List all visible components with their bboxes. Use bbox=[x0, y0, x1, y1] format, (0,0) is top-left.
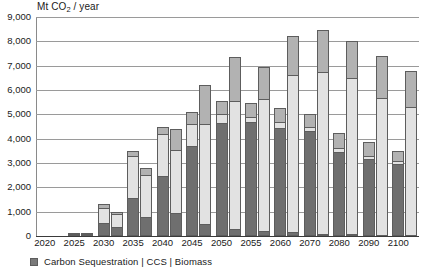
bar-segment-bio bbox=[363, 142, 375, 155]
bar-2055-series2[interactable] bbox=[258, 67, 270, 236]
bar-segment-seq bbox=[140, 217, 152, 236]
bar-group-2030 bbox=[98, 17, 124, 236]
bar-segment-bio bbox=[140, 168, 152, 175]
bars-layer bbox=[36, 17, 419, 236]
x-axis-tick-labels: 2020202520302035204020452050205520602070… bbox=[36, 238, 419, 252]
bar-2060-series1[interactable] bbox=[274, 108, 286, 236]
bar-2040-series1[interactable] bbox=[157, 127, 169, 237]
bar-2040-series2[interactable] bbox=[170, 129, 182, 236]
bar-group-2080 bbox=[333, 17, 359, 236]
bar-segment-bio bbox=[346, 41, 358, 78]
bar-segment-bio bbox=[111, 212, 123, 214]
bar-segment-ccs bbox=[98, 208, 110, 223]
bar-segment-seq bbox=[186, 146, 198, 236]
bar-segment-bio bbox=[258, 67, 270, 99]
bar-segment-seq bbox=[258, 231, 270, 236]
bar-2055-series1[interactable] bbox=[245, 103, 257, 236]
bar-segment-seq bbox=[245, 122, 257, 236]
bar-segment-bio bbox=[98, 204, 110, 208]
bar-group-2025 bbox=[68, 17, 94, 236]
bar-segment-seq bbox=[157, 176, 169, 236]
bar-segment-ccs bbox=[229, 101, 241, 229]
bar-segment-seq bbox=[363, 159, 375, 236]
bar-segment-bio bbox=[216, 101, 228, 114]
bar-segment-ccs bbox=[346, 78, 358, 234]
bar-segment-bio bbox=[405, 71, 417, 108]
bar-group-2035 bbox=[127, 17, 153, 236]
bar-2050-series2[interactable] bbox=[229, 57, 241, 236]
bar-segment-bio bbox=[245, 103, 257, 116]
bar-segment-bio bbox=[392, 151, 404, 161]
plot-area bbox=[36, 17, 419, 236]
bar-2080-series1[interactable] bbox=[333, 133, 345, 236]
bar-group-2020 bbox=[39, 17, 65, 236]
bar-segment-ccs bbox=[127, 156, 139, 199]
bar-segment-seq bbox=[199, 224, 211, 236]
y-tick-label-7000: 7,000 bbox=[0, 61, 31, 71]
bar-2090-series1[interactable] bbox=[363, 142, 375, 236]
bar-segment-seq bbox=[229, 229, 241, 236]
bar-group-2090 bbox=[363, 17, 389, 236]
bar-segment-bio bbox=[274, 108, 286, 121]
bar-2100-series1[interactable] bbox=[392, 151, 404, 236]
bar-2030-series1[interactable] bbox=[98, 204, 110, 236]
bar-2070-series1[interactable] bbox=[304, 114, 316, 236]
bar-2035-series1[interactable] bbox=[127, 151, 139, 236]
bar-2030-series2[interactable] bbox=[111, 212, 123, 236]
bar-segment-bio bbox=[127, 151, 139, 156]
bar-2060-series2[interactable] bbox=[287, 36, 299, 236]
legend-label: Carbon Sequestration | CCS | Biomass bbox=[44, 256, 212, 267]
bar-2050-series1[interactable] bbox=[216, 101, 228, 236]
bar-segment-ccs bbox=[245, 117, 257, 122]
bar-segment-seq bbox=[127, 198, 139, 236]
bar-2025-series2[interactable] bbox=[81, 234, 93, 236]
legend-swatch-icon bbox=[30, 258, 38, 266]
bar-segment-bio bbox=[157, 127, 169, 134]
bar-segment-bio bbox=[376, 56, 388, 98]
bar-segment-ccs bbox=[111, 214, 123, 227]
bar-segment-ccs bbox=[258, 99, 270, 232]
bar-segment-seq bbox=[98, 223, 110, 236]
bar-segment-bio bbox=[186, 112, 198, 124]
bar-segment-seq bbox=[346, 234, 358, 236]
bar-2035-series2[interactable] bbox=[140, 168, 152, 236]
bar-segment-ccs bbox=[216, 114, 228, 123]
bar-segment-ccs bbox=[363, 156, 375, 160]
bar-2070-series2[interactable] bbox=[317, 30, 329, 236]
y-tick-label-4000: 4,000 bbox=[0, 134, 31, 144]
chart-container: Mt CO2 / year 01,0002,0003,0004,0005,000… bbox=[0, 0, 421, 274]
bar-2080-series2[interactable] bbox=[346, 41, 358, 236]
bar-segment-bio bbox=[333, 133, 345, 149]
bar-2045-series2[interactable] bbox=[199, 85, 211, 236]
x-tick-label-2100: 2100 bbox=[378, 238, 418, 248]
bar-group-2050 bbox=[216, 17, 242, 236]
bar-2100-series2[interactable] bbox=[405, 71, 417, 236]
bar-2090-series2[interactable] bbox=[376, 56, 388, 236]
y-tick-label-6000: 6,000 bbox=[0, 85, 31, 95]
bar-segment-seq bbox=[392, 164, 404, 236]
bar-segment-ccs bbox=[186, 124, 198, 146]
y-axis-title-post: / year bbox=[71, 1, 100, 12]
bar-segment-seq bbox=[317, 234, 329, 236]
bar-segment-ccs bbox=[140, 175, 152, 216]
bar-segment-seq bbox=[111, 227, 123, 236]
y-axis-title-pre: Mt CO bbox=[37, 1, 66, 12]
bar-segment-ccs bbox=[392, 161, 404, 165]
y-tick-label-2000: 2,000 bbox=[0, 182, 31, 192]
bar-segment-bio bbox=[81, 233, 93, 234]
bar-group-2040 bbox=[157, 17, 183, 236]
y-axis-title: Mt CO2 / year bbox=[37, 1, 99, 12]
bar-segment-ccs bbox=[317, 72, 329, 234]
y-tick-label-9000: 9,000 bbox=[0, 12, 31, 22]
bar-segment-ccs bbox=[376, 98, 388, 234]
bar-group-2070 bbox=[304, 17, 330, 236]
bar-segment-seq bbox=[170, 213, 182, 236]
bar-segment-bio bbox=[199, 85, 211, 124]
bar-2045-series1[interactable] bbox=[186, 112, 198, 236]
bar-2025-series1[interactable] bbox=[68, 234, 80, 236]
bar-segment-ccs bbox=[287, 75, 299, 232]
bar-segment-ccs bbox=[157, 134, 169, 177]
bar-segment-ccs bbox=[333, 148, 345, 152]
bar-segment-bio bbox=[304, 114, 316, 126]
bar-segment-seq bbox=[287, 232, 299, 236]
